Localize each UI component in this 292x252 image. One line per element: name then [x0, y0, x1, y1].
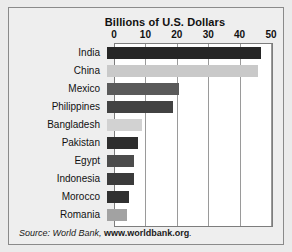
category-label-philippines: Philippines: [9, 102, 106, 112]
x-tick-label: 10: [140, 29, 151, 40]
bar-morocco: [107, 191, 129, 203]
bar-bangladesh: [107, 119, 142, 131]
bar-row: China: [9, 62, 285, 80]
category-label-pakistan: Pakistan: [9, 138, 106, 148]
x-axis-tick-labels: 01020304050: [114, 29, 271, 43]
x-tick-label: 20: [171, 29, 182, 40]
bar-china: [107, 65, 258, 77]
bar-track: [106, 98, 264, 116]
bar-track: [106, 62, 264, 80]
bar-mexico: [107, 83, 179, 95]
bar-pakistan: [107, 137, 138, 149]
bar-row: Bangladesh: [9, 116, 285, 134]
bar-egypt: [107, 155, 134, 167]
bar-track: [106, 44, 264, 62]
bar-row: Indonesia: [9, 170, 285, 188]
bar-philippines: [107, 101, 173, 113]
category-label-bangladesh: Bangladesh: [9, 120, 106, 130]
bar-india: [107, 47, 261, 59]
category-label-china: China: [9, 66, 106, 76]
bar-track: [106, 116, 264, 134]
x-tick-label: 40: [234, 29, 245, 40]
bar-rows: IndiaChinaMexicoPhilippinesBangladeshPak…: [9, 44, 285, 224]
bar-track: [106, 206, 264, 224]
bar-track: [106, 170, 264, 188]
category-label-morocco: Morocco: [9, 192, 106, 202]
category-label-romania: Romania: [9, 210, 106, 220]
category-label-egypt: Egypt: [9, 156, 106, 166]
chart-figure: Billions of U.S. Dollars 01020304050 Ind…: [8, 7, 284, 245]
bar-row: Pakistan: [9, 134, 285, 152]
bar-row: Egypt: [9, 152, 285, 170]
bar-row: India: [9, 44, 285, 62]
source-prefix: Source: World Bank,: [19, 228, 102, 238]
chart-title: Billions of U.S. Dollars: [9, 16, 283, 28]
bar-indonesia: [107, 173, 134, 185]
bar-romania: [107, 209, 127, 221]
category-label-mexico: Mexico: [9, 84, 106, 94]
bar-row: Mexico: [9, 80, 285, 98]
x-tick-label: 50: [265, 29, 276, 40]
category-label-indonesia: Indonesia: [9, 174, 106, 184]
x-tick-label: 0: [111, 29, 117, 40]
bar-track: [106, 188, 264, 206]
source-suffix: .: [189, 228, 192, 238]
x-tick-label: 30: [203, 29, 214, 40]
bar-row: Morocco: [9, 188, 285, 206]
category-label-india: India: [9, 48, 106, 58]
bar-track: [106, 152, 264, 170]
bar-track: [106, 80, 264, 98]
source-note: Source: World Bank, www.worldbank.org.: [19, 228, 192, 238]
bar-track: [106, 134, 264, 152]
bar-row: Philippines: [9, 98, 285, 116]
source-url-link[interactable]: www.worldbank.org: [104, 228, 189, 238]
bar-row: Romania: [9, 206, 285, 224]
